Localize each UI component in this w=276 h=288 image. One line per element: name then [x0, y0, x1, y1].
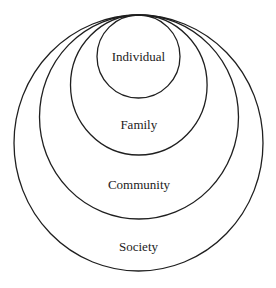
family-circle	[71, 15, 208, 155]
individual-label: Individual	[112, 49, 166, 64]
individual-level: Individual	[97, 15, 180, 98]
community-label: Community	[108, 177, 171, 192]
family-level: Family	[71, 15, 208, 155]
society-label: Society	[119, 239, 158, 254]
nested-circles-diagram: Society Community Family Individual	[0, 0, 276, 288]
family-label: Family	[120, 117, 157, 132]
